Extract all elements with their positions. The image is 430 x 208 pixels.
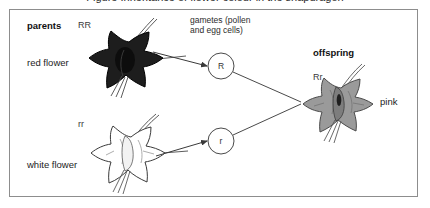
offspring-heading: offspring — [313, 47, 354, 58]
offspring-genotype: Rr — [313, 72, 323, 82]
figure-frame: parents RR red flower — [9, 9, 418, 197]
figure-caption-strip: Figure Inheritance of flower colour in t… — [0, 0, 430, 3]
white-flower-graphic — [91, 114, 188, 194]
offspring-label: pink — [380, 96, 398, 107]
line-gamete-R-to-offspring — [233, 72, 301, 102]
red-flower-label: red flower — [27, 57, 69, 68]
gamete-allele-r: r — [220, 136, 223, 146]
figure-page: Figure Inheritance of flower colour in t… — [0, 0, 430, 208]
gametes-heading-line1: gametes (pollen — [190, 15, 251, 25]
gametes-heading-line2: and egg cells) — [190, 25, 243, 35]
white-flower-label: white flower — [26, 159, 77, 170]
parents-heading: parents — [27, 20, 61, 31]
figure-caption-text: Figure Inheritance of flower colour in t… — [0, 0, 430, 3]
red-flower-genotype: RR — [78, 20, 91, 30]
gamete-circle-r: r — [208, 128, 234, 154]
red-flower-graphic — [89, 18, 186, 98]
line-gamete-r-to-offspring — [233, 104, 301, 135]
white-flower-genotype: rr — [78, 119, 84, 129]
arrow-white-to-gamete-r — [156, 141, 207, 156]
gamete-circle-R: R — [208, 53, 234, 79]
gamete-allele-R: R — [218, 61, 224, 71]
inheritance-diagram: parents RR red flower — [10, 10, 417, 196]
